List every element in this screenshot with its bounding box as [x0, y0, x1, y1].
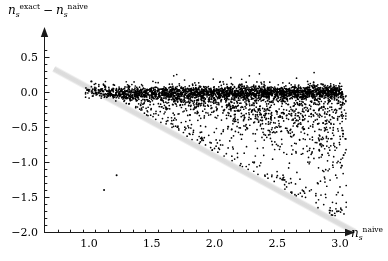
y-title-operator: − [40, 3, 56, 17]
x-tick-label: 1.5 [134, 238, 170, 249]
y-tick-label: −1.5 [2, 192, 38, 203]
plot-drawing-surface [0, 0, 388, 261]
y-title-var1: n [8, 3, 16, 17]
y-title-var2: n [56, 3, 64, 17]
x-title-var-sub: s [359, 233, 363, 242]
y-tick-label: 0.5 [2, 52, 38, 63]
x-tick-label: 2.5 [259, 238, 295, 249]
x-tick-label: 3.0 [322, 238, 358, 249]
y-title-var2-sub: s [64, 10, 68, 19]
y-title-var1-sub: s [16, 10, 20, 19]
y-title-var1-sup: exact [20, 2, 40, 11]
y-tick-label: 0.0 [2, 87, 38, 98]
y-tick-label: −1.0 [2, 157, 38, 168]
x-tick-label: 1.0 [71, 238, 107, 249]
y-tick-label: −0.5 [2, 122, 38, 133]
x-title-var-sup: naive [363, 225, 383, 234]
y-axis-title: nsexact−nsnaive [8, 3, 88, 19]
y-tick-label: −2.0 [2, 227, 38, 238]
scatter-plot-figure: nsexact−nsnaive nsnaive 0.50.0−0.5−1.0−1… [0, 0, 388, 261]
y-title-var2-sup: naive [68, 2, 88, 11]
x-tick-label: 2.0 [197, 238, 233, 249]
